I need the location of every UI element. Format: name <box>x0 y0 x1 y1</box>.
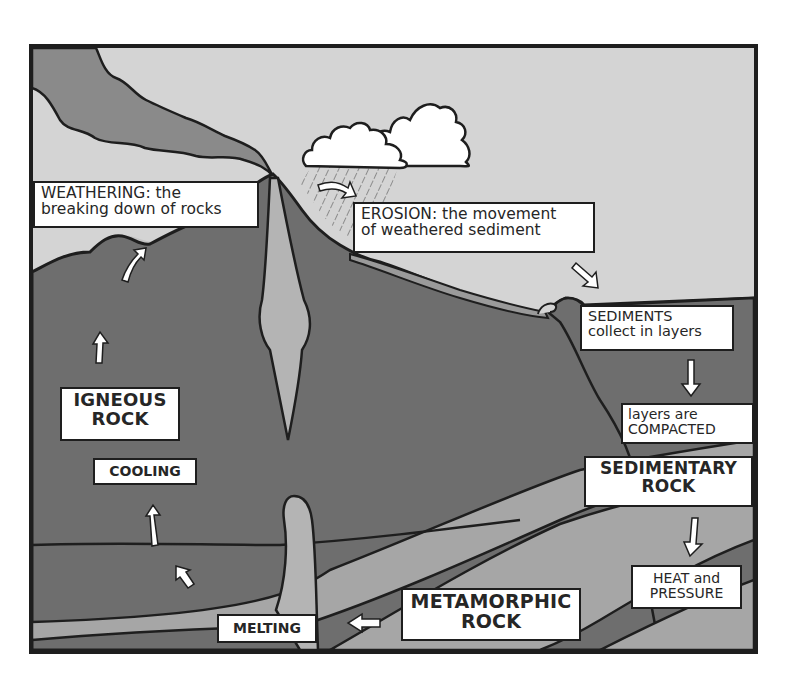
label-sediments: SEDIMENTS collect in layers <box>580 305 734 351</box>
label-melting-text: MELTING <box>219 621 315 636</box>
label-sedimentary-rock: SEDIMENTARY ROCK <box>584 456 753 507</box>
label-cooling: COOLING <box>93 458 197 485</box>
label-heat-pressure-line2: PRESSURE <box>633 586 740 601</box>
label-erosion: EROSION: the movement of weathered sedim… <box>353 202 595 253</box>
label-weathering: WEATHERING: the breaking down of rocks <box>33 181 259 228</box>
label-metamorphic-rock: METAMORPHIC ROCK <box>401 588 581 641</box>
label-sedimentary-rock-line2: ROCK <box>586 478 751 496</box>
label-compacted: layers are COMPACTED <box>621 403 754 444</box>
label-cooling-text: COOLING <box>95 464 195 479</box>
label-weathering-line1: WEATHERING: the <box>41 185 257 201</box>
label-erosion-line2: of weathered sediment <box>361 222 593 238</box>
label-weathering-line2: breaking down of rocks <box>41 201 257 217</box>
label-igneous-rock: IGNEOUS ROCK <box>60 387 180 441</box>
label-igneous-rock-line2: ROCK <box>62 410 178 429</box>
label-sediments-line2: collect in layers <box>588 324 732 339</box>
rock-cycle-diagram: WEATHERING: the breaking down of rocks E… <box>0 0 786 684</box>
label-metamorphic-rock-line2: ROCK <box>403 612 579 632</box>
label-heat-pressure-line1: HEAT and <box>633 571 740 586</box>
label-heat-pressure: HEAT and PRESSURE <box>631 565 742 609</box>
label-sediments-line1: SEDIMENTS <box>588 309 732 324</box>
label-compacted-line1: layers are <box>628 407 752 422</box>
label-compacted-line2: COMPACTED <box>628 422 752 437</box>
label-metamorphic-rock-line1: METAMORPHIC <box>403 592 579 612</box>
label-melting: MELTING <box>217 614 317 643</box>
label-erosion-line1: EROSION: the movement <box>361 206 593 222</box>
